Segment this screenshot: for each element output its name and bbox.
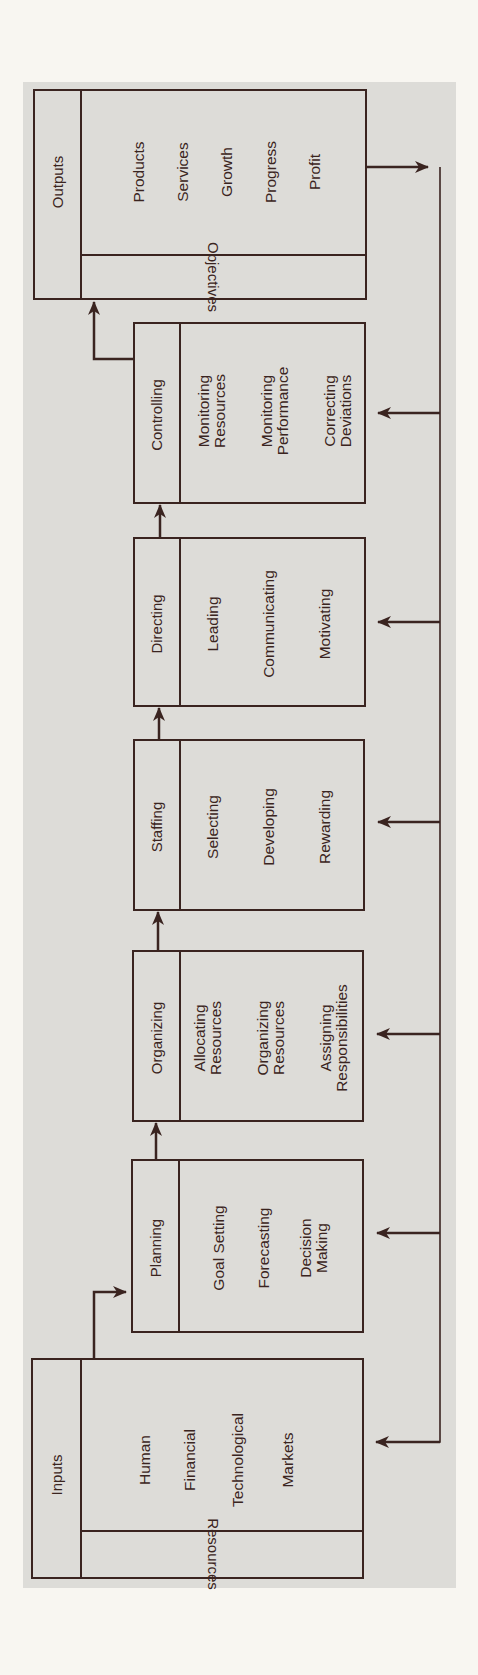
flow-arrows bbox=[0, 0, 478, 1675]
arrow-inputs-to-planning bbox=[94, 1292, 126, 1358]
feedback-line bbox=[380, 167, 440, 1442]
arrow-controlling-to-outputs bbox=[94, 302, 133, 359]
